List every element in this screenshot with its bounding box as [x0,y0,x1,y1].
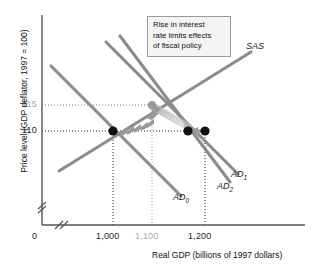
x-tick-1100: 1,100 [135,231,159,241]
x-tick-1000: 1,000 [96,231,120,241]
curve-label-ad2: AD2 [217,181,233,193]
curve-ad2 [120,36,230,182]
curve-label-ad0-sub: 0 [186,197,190,204]
curve-label-ad1-sub: 1 [244,174,248,181]
equilibrium-dot-no-crowding [200,126,209,135]
annotation-line-1: Rise in interest [153,20,226,31]
annotation-box: Rise in interest rate limits effects of … [147,16,231,57]
chart-figure: Rise in interest rate limits effects of … [0,0,312,271]
equilibrium-dot-new-with-crowding [183,126,192,135]
x-tick-1200: 1,200 [188,231,212,241]
x-axis-title: Real GDP (billions of 1997 dollars) [152,250,282,260]
curve-label-ad2-base: AD [217,181,230,191]
x-tick-origin: 0 [32,231,37,241]
curve-label-ad0-base: AD [173,192,186,202]
curve-label-ad1: AD1 [231,169,247,181]
annotation-line-3: of fiscal policy [153,41,226,52]
curve-ad1 [106,42,238,174]
curve-label-ad0: AD0 [173,192,189,204]
curve-label-ad2-sub: 2 [230,186,234,193]
curve-label-ad1-base: AD [231,169,244,179]
y-axis-title: Price level (GDP deflator, 1997 = 100) [19,21,29,181]
equilibrium-dot-intermediate [148,101,156,109]
equilibrium-dot-initial [108,126,117,135]
annotation-line-2: rate limits effects [153,31,226,42]
curve-label-sas: SAS [246,41,264,51]
